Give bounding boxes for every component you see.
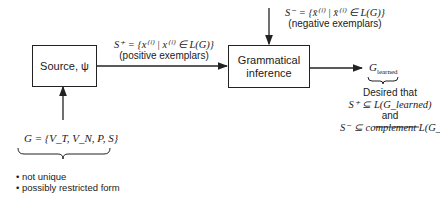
positive-exemplars: S⁺ = {x⁽ⁱ⁾ | x⁽ⁱ⁾ ∈ L(G)} (positive exem… xyxy=(108,38,220,61)
condition-positive: S⁺ ⊆ L(G_learned) xyxy=(340,98,440,110)
inference-line2: inference xyxy=(246,67,291,80)
note-item: • not unique xyxy=(16,171,120,182)
inference-line1: Grammatical xyxy=(238,54,300,67)
negative-caption: (negative exemplars) xyxy=(276,18,394,29)
condition-negative: S⁻ ⊆ complement L(G_learned) xyxy=(340,121,440,133)
output-brace xyxy=(368,77,398,84)
note-item: • possibly restricted form xyxy=(16,182,120,193)
positive-caption: (positive exemplars) xyxy=(108,50,220,61)
negative-exemplars: S⁻ = {x̄⁽ⁱ⁾ | x̄⁽ⁱ⁾ ∈ L(G)} (negative ex… xyxy=(276,6,394,29)
grammatical-inference-box: Grammatical inference xyxy=(228,45,310,88)
positive-set: S⁺ = {x⁽ⁱ⁾ | x⁽ⁱ⁾ ∈ L(G)} xyxy=(108,38,220,50)
condition-connector: and xyxy=(340,110,440,121)
g-learned: Glearned xyxy=(369,61,398,76)
source-label: Source, ψ xyxy=(40,60,89,73)
desired-intro: Desired that xyxy=(340,87,440,98)
desired-conditions: Desired that S⁺ ⊆ L(G_learned) and S⁻ ⊆ … xyxy=(340,87,440,133)
grammar-notes: • not unique • possibly restricted form xyxy=(16,171,120,193)
source-box: Source, ψ xyxy=(32,45,97,87)
grammar-brace xyxy=(18,148,110,159)
negative-set: S⁻ = {x̄⁽ⁱ⁾ | x̄⁽ⁱ⁾ ∈ L(G)} xyxy=(276,6,394,18)
grammar-definition: G = {V_T, V_N, P, S} xyxy=(24,132,118,144)
